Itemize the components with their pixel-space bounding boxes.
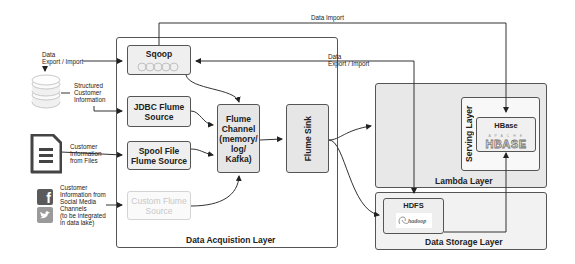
sink-label: Flume Sink	[303, 116, 313, 161]
hbase-node[interactable]: HBase A P A C H E HBASE	[476, 117, 536, 152]
hdfs-node[interactable]: HDFS hadoop	[383, 198, 444, 234]
hbase-logo-icon: HBASE	[485, 139, 526, 150]
twitter-icon	[37, 207, 53, 223]
social-note-line6: in data lake)	[60, 219, 94, 227]
sqoop-node[interactable]: Sqoop	[127, 45, 191, 75]
custom-label-line1: Custom Flume	[131, 196, 186, 206]
channel-label-line4: log/	[231, 144, 246, 154]
custom-flume-source-node[interactable]: Custom Flume Source	[127, 191, 191, 220]
jdbc-label-line2: Source	[145, 112, 174, 122]
channel-label-line2: Channel	[222, 124, 256, 134]
jdbc-label-line1: JDBC Flume	[134, 102, 185, 112]
sqoop-logo-icon	[136, 61, 182, 73]
flume-channel-node[interactable]: Flume Channel (memory/ log/ Kafka)	[217, 104, 260, 173]
db-export-note-line2: Export / Import	[42, 58, 83, 66]
svg-text:hadoop: hadoop	[408, 218, 426, 224]
export-import-label-line2: Export / Import	[328, 60, 369, 68]
channel-label-line5: Kafka)	[226, 154, 252, 164]
hadoop-logo-icon: hadoop	[396, 213, 432, 228]
channel-label-line1: Flume	[226, 114, 251, 124]
spool-file-flume-source-node[interactable]: Spool File Flume Source	[127, 141, 191, 170]
document-icon	[29, 134, 62, 174]
hdfs-label: HDFS	[403, 201, 423, 211]
hbase-label: HBase	[494, 121, 517, 131]
channel-label-line3: (memory/	[219, 134, 257, 144]
facebook-icon: f	[37, 189, 53, 205]
flume-sink-node[interactable]: Flume Sink	[286, 104, 329, 173]
spool-label-line2: Flume Source	[131, 156, 187, 166]
data-import-label: Data Import	[311, 14, 344, 22]
files-note-line3: from Files	[70, 157, 98, 165]
custom-label-line2: Source	[146, 206, 173, 216]
database-icon	[30, 73, 62, 111]
jdbc-flume-source-node[interactable]: JDBC Flume Source	[127, 96, 191, 127]
sqoop-label: Sqoop	[146, 49, 172, 59]
db-note-line3: Information	[74, 96, 106, 104]
spool-label-line1: Spool File	[139, 146, 180, 156]
